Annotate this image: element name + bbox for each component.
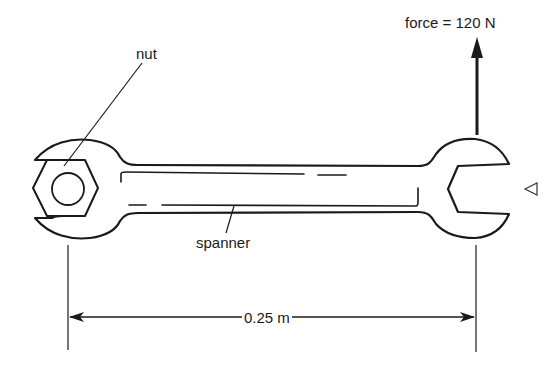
nut-hexagon xyxy=(33,160,98,216)
arrow-up-icon xyxy=(471,37,483,135)
spanner-label: spanner xyxy=(196,235,250,250)
nut-bore xyxy=(52,173,84,205)
spanner-outline xyxy=(35,139,509,239)
force-label: force = 120 N xyxy=(405,15,495,30)
distance-label: 0.25 m xyxy=(242,310,292,325)
handle-recess-bottom xyxy=(129,188,418,206)
handle-recess-top xyxy=(121,172,346,182)
nut-label: nut xyxy=(136,46,157,61)
nut-leader xyxy=(64,63,142,166)
triangle-left-icon[interactable] xyxy=(523,181,539,197)
spanner-leader xyxy=(226,206,234,233)
